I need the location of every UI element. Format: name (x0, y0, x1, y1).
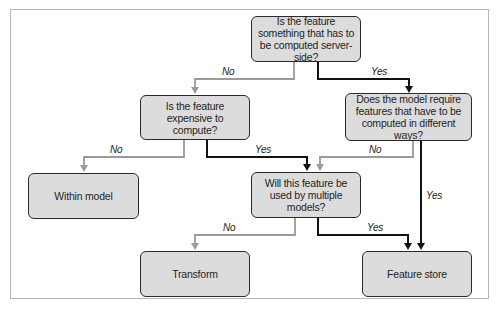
decision-server-side: Is the feature something that has to be … (251, 16, 361, 62)
edge-label-q2-yes: Yes (255, 144, 271, 155)
edge-label-q1-yes: Yes (371, 66, 387, 77)
edge-q4-no-r2 (195, 218, 295, 244)
edge-q1-yes-q3 (318, 62, 409, 86)
node-label: Transform (172, 268, 218, 280)
edge-q2-no-r1 (84, 140, 184, 166)
edge-q3-no-q4 (320, 141, 413, 165)
edge-label-q1-no: No (222, 66, 234, 77)
edge-label-q2-no: No (110, 144, 122, 155)
edge-q1-no-q2 (195, 62, 294, 88)
edge-label-q4-no: No (223, 222, 235, 233)
node-label: Is the feature expensive to compute? (145, 100, 245, 136)
edge-label-q4-yes: Yes (367, 222, 383, 233)
node-label: Does the model require features that hav… (350, 93, 467, 141)
outcome-within-model: Within model (28, 173, 139, 219)
outcome-transform: Transform (140, 251, 250, 297)
edge-q4-yes-r3 (318, 218, 408, 244)
node-label: Within model (54, 190, 112, 202)
node-label: Feature store (387, 268, 447, 280)
outcome-feature-store: Feature store (362, 251, 472, 297)
edge-label-q3-no: No (369, 144, 381, 155)
edge-label-q3-yes: Yes (426, 190, 442, 201)
decision-expensive: Is the feature expensive to compute? (140, 95, 250, 140)
node-label: Is the feature something that has to be … (256, 15, 356, 63)
decision-multiple-models: Will this feature be used by multiple mo… (251, 172, 361, 218)
node-label: Will this feature be used by multiple mo… (256, 177, 356, 213)
decision-different-ways: Does the model require features that hav… (345, 93, 472, 141)
